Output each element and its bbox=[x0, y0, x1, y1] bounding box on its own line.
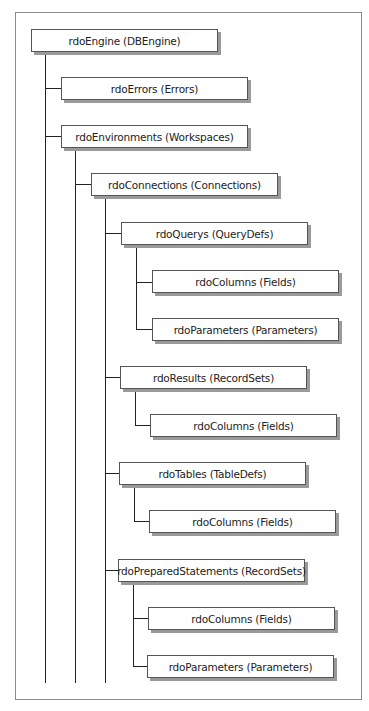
node-rdo-results: rdoResults (RecordSets) bbox=[120, 366, 307, 389]
node-rdo-errors: rdoErrors (Errors) bbox=[61, 77, 248, 100]
node-rdo-columns-results: rdoColumns (Fields) bbox=[150, 414, 337, 437]
connector-environments-trunk bbox=[75, 148, 76, 683]
connector-querys-columns bbox=[136, 282, 152, 283]
node-rdo-columns-tables: rdoColumns (Fields) bbox=[149, 510, 336, 533]
node-rdo-querys: rdoQuerys (QueryDefs) bbox=[121, 222, 308, 245]
connector-engine-trunk bbox=[45, 52, 46, 683]
node-rdo-engine: rdoEngine (DBEngine) bbox=[31, 29, 218, 52]
node-rdo-connections: rdoConnections (Connections) bbox=[91, 173, 278, 196]
node-rdo-parameters-querys: rdoParameters (Parameters) bbox=[152, 318, 339, 341]
connector-querys-parameters bbox=[136, 329, 152, 330]
connector-tables-trunk bbox=[134, 485, 135, 522]
connector-environments bbox=[45, 136, 61, 137]
connector-prepared-columns bbox=[133, 618, 148, 619]
connector-prepared-parameters bbox=[133, 666, 147, 667]
connector-querys bbox=[105, 233, 121, 234]
connector-connections-trunk bbox=[105, 196, 106, 683]
node-rdo-columns-prepared: rdoColumns (Fields) bbox=[148, 607, 335, 630]
connector-results-columns bbox=[135, 425, 150, 426]
diagram-frame bbox=[15, 12, 362, 700]
connector-connections bbox=[75, 184, 91, 185]
connector-results-trunk bbox=[135, 389, 136, 426]
connector-tables bbox=[105, 473, 119, 474]
node-rdo-environments: rdoEnvironments (Workspaces) bbox=[61, 125, 248, 148]
connector-tables-columns bbox=[134, 521, 149, 522]
connector-prepared bbox=[105, 570, 118, 571]
connector-prepared-trunk bbox=[133, 582, 134, 667]
node-rdo-parameters-prepared: rdoParameters (Parameters) bbox=[147, 655, 334, 678]
connector-querys-trunk bbox=[136, 245, 137, 330]
connector-errors bbox=[45, 88, 61, 89]
connector-results bbox=[105, 377, 120, 378]
node-rdo-columns-querys: rdoColumns (Fields) bbox=[152, 270, 339, 293]
node-rdo-tables: rdoTables (TableDefs) bbox=[119, 462, 306, 485]
node-rdo-prepared-statements: rdoPreparedStatements (RecordSets) bbox=[118, 559, 305, 582]
